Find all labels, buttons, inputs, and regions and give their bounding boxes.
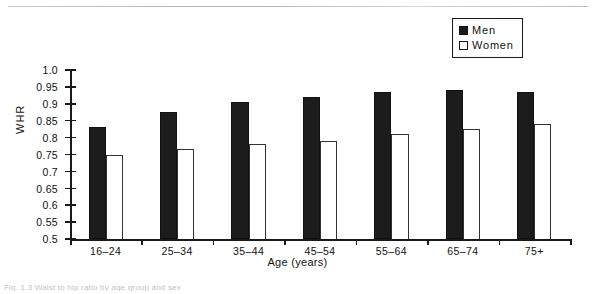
x-tick [356, 239, 358, 245]
y-axis-title: WHR [14, 105, 26, 134]
y-tick: 0.9 [65, 103, 76, 105]
x-tick [141, 239, 143, 245]
y-tick-label: 1.0 [43, 64, 59, 76]
bar-women-25-34 [177, 149, 194, 239]
bar-women-65-74 [463, 129, 480, 239]
page-top-rule [8, 6, 588, 7]
legend-item-women: Women [459, 38, 514, 53]
y-tick-label: 0.85 [36, 115, 58, 127]
x-tick [284, 239, 286, 245]
y-tick-label: 0.5 [43, 233, 59, 245]
y-tick: 0.85 [65, 120, 76, 122]
x-tick [213, 239, 215, 245]
bar-men-65-74 [446, 90, 463, 239]
x-axis-title: Age (years) [0, 256, 595, 268]
bar-men-75+ [517, 92, 534, 239]
y-tick: 0.95 [65, 86, 76, 88]
figure-caption: Fig. 1.3 Waist to hip ratio by age group… [4, 283, 424, 291]
bar-women-35-44 [249, 144, 266, 239]
bar-women-55-64 [391, 134, 408, 239]
x-tick [570, 239, 572, 245]
bar-men-35-44 [231, 102, 248, 239]
x-tick [427, 239, 429, 245]
y-tick: 0.65 [65, 188, 76, 190]
legend-label-men: Men [472, 25, 496, 36]
y-tick-label: 0.9 [43, 98, 59, 110]
bar-men-16-24 [89, 127, 106, 239]
y-tick-label: 0.95 [36, 81, 58, 93]
y-tick-label: 0.55 [36, 216, 58, 228]
plot-area: 1.00.950.90.850.80.750.70.650.60.550.5 1… [70, 70, 570, 239]
chart-legend: Men Women [452, 18, 523, 58]
bar-men-25-34 [160, 112, 177, 239]
y-tick-label: 0.65 [36, 183, 58, 195]
legend-item-men: Men [459, 23, 514, 38]
x-tick [70, 239, 72, 245]
y-tick: 0.8 [65, 137, 76, 139]
figure-container: Men Women WHR 1.00.950.90.850.80.750.70.… [0, 0, 595, 294]
bar-women-45-54 [320, 141, 337, 239]
y-tick: 1.0 [65, 69, 76, 71]
bar-men-45-54 [303, 97, 320, 239]
y-tick-label: 0.6 [43, 199, 59, 211]
open-square-icon [459, 41, 468, 50]
filled-square-icon [459, 26, 468, 35]
legend-label-women: Women [472, 40, 514, 51]
x-tick [499, 239, 501, 245]
x-axis-line [70, 239, 570, 241]
bar-men-55-64 [374, 92, 391, 239]
y-tick: 0.55 [65, 221, 76, 223]
y-tick-label: 0.75 [36, 149, 58, 161]
bar-women-75+ [534, 124, 551, 239]
y-tick: 0.6 [65, 204, 76, 206]
bar-women-16-24 [106, 155, 123, 240]
y-tick: 0.7 [65, 171, 76, 173]
y-tick-label: 0.7 [43, 166, 59, 178]
y-tick-label: 0.8 [43, 132, 59, 144]
y-tick: 0.75 [65, 154, 76, 156]
